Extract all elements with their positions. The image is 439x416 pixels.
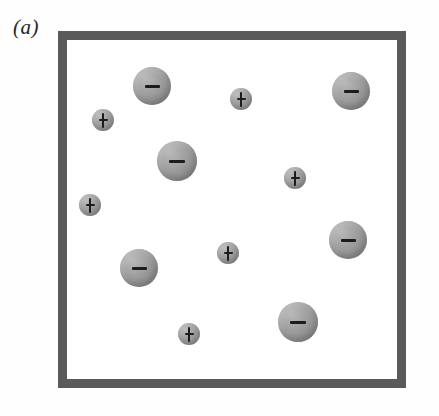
panel-label: (a) [13, 17, 39, 38]
minus-icon [145, 85, 160, 88]
minus-icon [169, 160, 185, 163]
particle-negative [329, 221, 367, 259]
minus-icon [290, 321, 306, 324]
particle-negative [332, 72, 370, 110]
plus-icon [224, 252, 233, 255]
particle-negative [133, 67, 171, 105]
figure-panel: (a) [0, 0, 439, 416]
plus-icon [237, 98, 246, 101]
container-interior [67, 40, 397, 379]
plus-icon [86, 204, 95, 207]
particle-negative [120, 249, 158, 287]
minus-icon [341, 239, 356, 242]
particle-positive [284, 167, 306, 189]
particle-positive [79, 194, 101, 216]
particle-positive [178, 323, 200, 345]
minus-icon [344, 90, 359, 93]
particle-positive [92, 109, 114, 131]
particle-positive [230, 88, 252, 110]
plus-icon [185, 333, 194, 336]
minus-icon [132, 267, 147, 270]
particle-positive [217, 242, 239, 264]
plus-icon [291, 177, 300, 180]
particle-negative [157, 141, 197, 181]
plus-icon [99, 119, 108, 122]
container-box [58, 31, 406, 388]
particle-negative [278, 302, 318, 342]
